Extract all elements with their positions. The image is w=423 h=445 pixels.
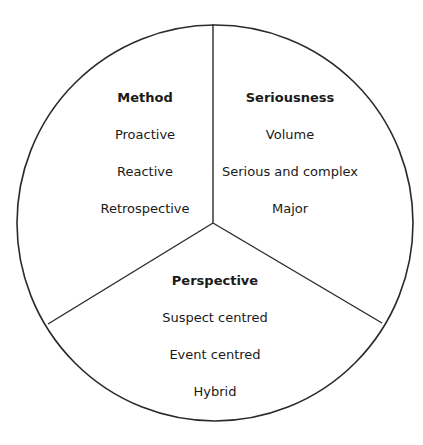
segment-title-perspective: Perspective: [162, 273, 268, 289]
segment-method: Method Proactive Reactive Retrospective: [100, 90, 189, 217]
segment-item: Proactive: [100, 127, 189, 143]
segment-title-seriousness: Seriousness: [222, 90, 358, 106]
segment-item: Hybrid: [162, 384, 268, 400]
segment-item: Event centred: [162, 347, 268, 363]
segment-perspective: Perspective Suspect centred Event centre…: [162, 273, 268, 400]
segmented-circle-diagram: Method Proactive Reactive Retrospective …: [0, 0, 423, 445]
segment-item: Reactive: [100, 164, 189, 180]
segment-item: Major: [222, 201, 358, 217]
segment-item: Suspect centred: [162, 310, 268, 326]
segment-item: Serious and complex: [222, 164, 358, 180]
segment-item: Retrospective: [100, 201, 189, 217]
segment-item: Volume: [222, 127, 358, 143]
segment-title-method: Method: [100, 90, 189, 106]
segment-seriousness: Seriousness Volume Serious and complex M…: [222, 90, 358, 217]
